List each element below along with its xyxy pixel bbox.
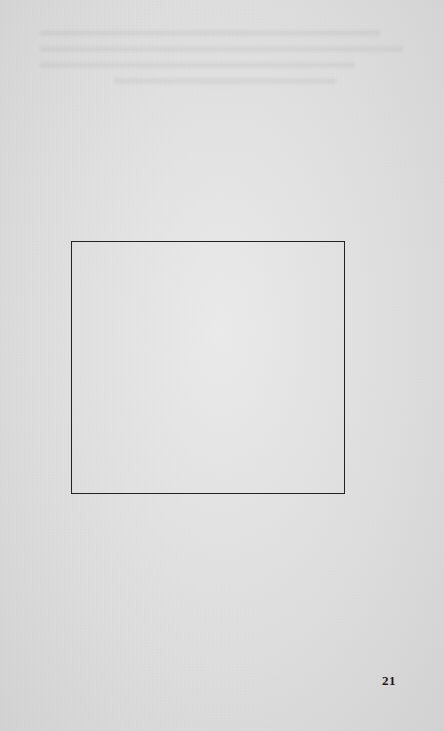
- bleed-line: [114, 78, 336, 84]
- page-number: 21: [382, 673, 396, 689]
- reverse-side-bleed-through: [40, 30, 410, 110]
- bleed-line: [40, 46, 403, 52]
- bleed-line: [40, 62, 355, 68]
- bleed-line: [40, 30, 380, 36]
- book-page: 21: [0, 0, 444, 731]
- empty-figure-frame: [71, 241, 345, 494]
